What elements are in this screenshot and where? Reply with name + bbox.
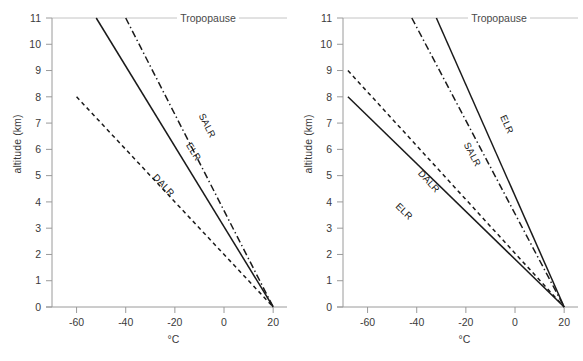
unstable-atmosphere-panel: Tropopause01234567891011-60-40-20020ELRS… <box>291 0 582 361</box>
x-axis-ticks: -60-40-20020 <box>69 307 279 328</box>
stable-atmosphere-panel: Tropopause01234567891011-60-40-20020ELRS… <box>0 0 291 361</box>
left-x-axis-label: °C <box>0 333 291 345</box>
right-x-axis-label: °C <box>291 333 582 345</box>
series-label-dalr: DALR <box>151 172 177 199</box>
y-tick-label: 10 <box>29 38 41 50</box>
series-label-dalr: DALR <box>416 168 442 195</box>
y-tick-label: 9 <box>35 64 41 76</box>
y-tick-label: 11 <box>321 12 332 24</box>
y-tick-label: 5 <box>326 169 332 181</box>
y-tick-label: 8 <box>326 91 332 103</box>
x-tick-label: -60 <box>360 316 375 328</box>
left-plot-canvas: Tropopause01234567891011-60-40-20020ELRS… <box>0 0 291 361</box>
series-line-elr <box>96 18 273 307</box>
series-label-elr-lower: ELR <box>394 201 416 222</box>
series-label-elr-upper: ELR <box>498 113 516 135</box>
y-axis-ticks: 01234567891011 <box>320 12 343 313</box>
left-y-axis-label: altitude (km) <box>11 89 23 199</box>
y-tick-label: 6 <box>35 143 41 155</box>
x-tick-label: -40 <box>409 316 424 328</box>
x-tick-label: -60 <box>69 316 84 328</box>
y-tick-label: 5 <box>35 169 41 181</box>
right-x-axis-label-text: °C <box>459 333 471 345</box>
x-axis-ticks: -60-40-20020 <box>360 307 570 328</box>
y-tick-label: 0 <box>35 301 41 313</box>
right-y-axis-label: altitude (km) <box>302 89 314 199</box>
series-line-salr <box>412 18 564 307</box>
y-tick-label: 3 <box>35 222 41 234</box>
x-tick-label: -40 <box>118 316 133 328</box>
left-x-axis-label-text: °C <box>168 333 180 345</box>
y-tick-label: 6 <box>326 143 332 155</box>
series-label-salr: SALR <box>197 111 219 139</box>
y-tick-label: 2 <box>326 248 332 260</box>
series-label-salr: SALR <box>462 140 484 168</box>
y-tick-label: 4 <box>326 196 332 208</box>
series-line-elr-lower <box>348 97 564 307</box>
y-tick-label: 2 <box>35 248 41 260</box>
x-tick-label: 20 <box>558 316 570 328</box>
y-tick-label: 7 <box>35 117 41 129</box>
y-tick-label: 1 <box>35 274 41 286</box>
right-plot-canvas: Tropopause01234567891011-60-40-20020ELRS… <box>291 0 582 361</box>
y-tick-label: 7 <box>326 117 332 129</box>
series-line-dalr <box>348 71 564 307</box>
figure-root: Tropopause01234567891011-60-40-20020ELRS… <box>0 0 583 361</box>
series-line-salr <box>126 18 273 307</box>
tropopause-annotation: Tropopause <box>52 12 287 24</box>
x-tick-label: 20 <box>267 316 279 328</box>
x-tick-label: 0 <box>512 316 518 328</box>
y-tick-label: 1 <box>326 274 332 286</box>
y-tick-label: 4 <box>35 196 41 208</box>
y-tick-label: 8 <box>35 91 41 103</box>
series-line-dalr <box>77 97 274 307</box>
x-tick-label: -20 <box>458 316 473 328</box>
y-axis-ticks: 01234567891011 <box>29 12 52 313</box>
y-tick-label: 9 <box>326 64 332 76</box>
y-tick-label: 3 <box>326 222 332 234</box>
x-tick-label: 0 <box>221 316 227 328</box>
series-line-elr-upper <box>436 18 564 307</box>
tropopause-label: Tropopause <box>471 12 527 24</box>
tropopause-label: Tropopause <box>180 12 236 24</box>
y-tick-label: 11 <box>30 12 41 24</box>
x-tick-label: -20 <box>167 316 182 328</box>
y-tick-label: 0 <box>326 301 332 313</box>
tropopause-annotation: Tropopause <box>343 12 578 24</box>
y-tick-label: 10 <box>320 38 332 50</box>
